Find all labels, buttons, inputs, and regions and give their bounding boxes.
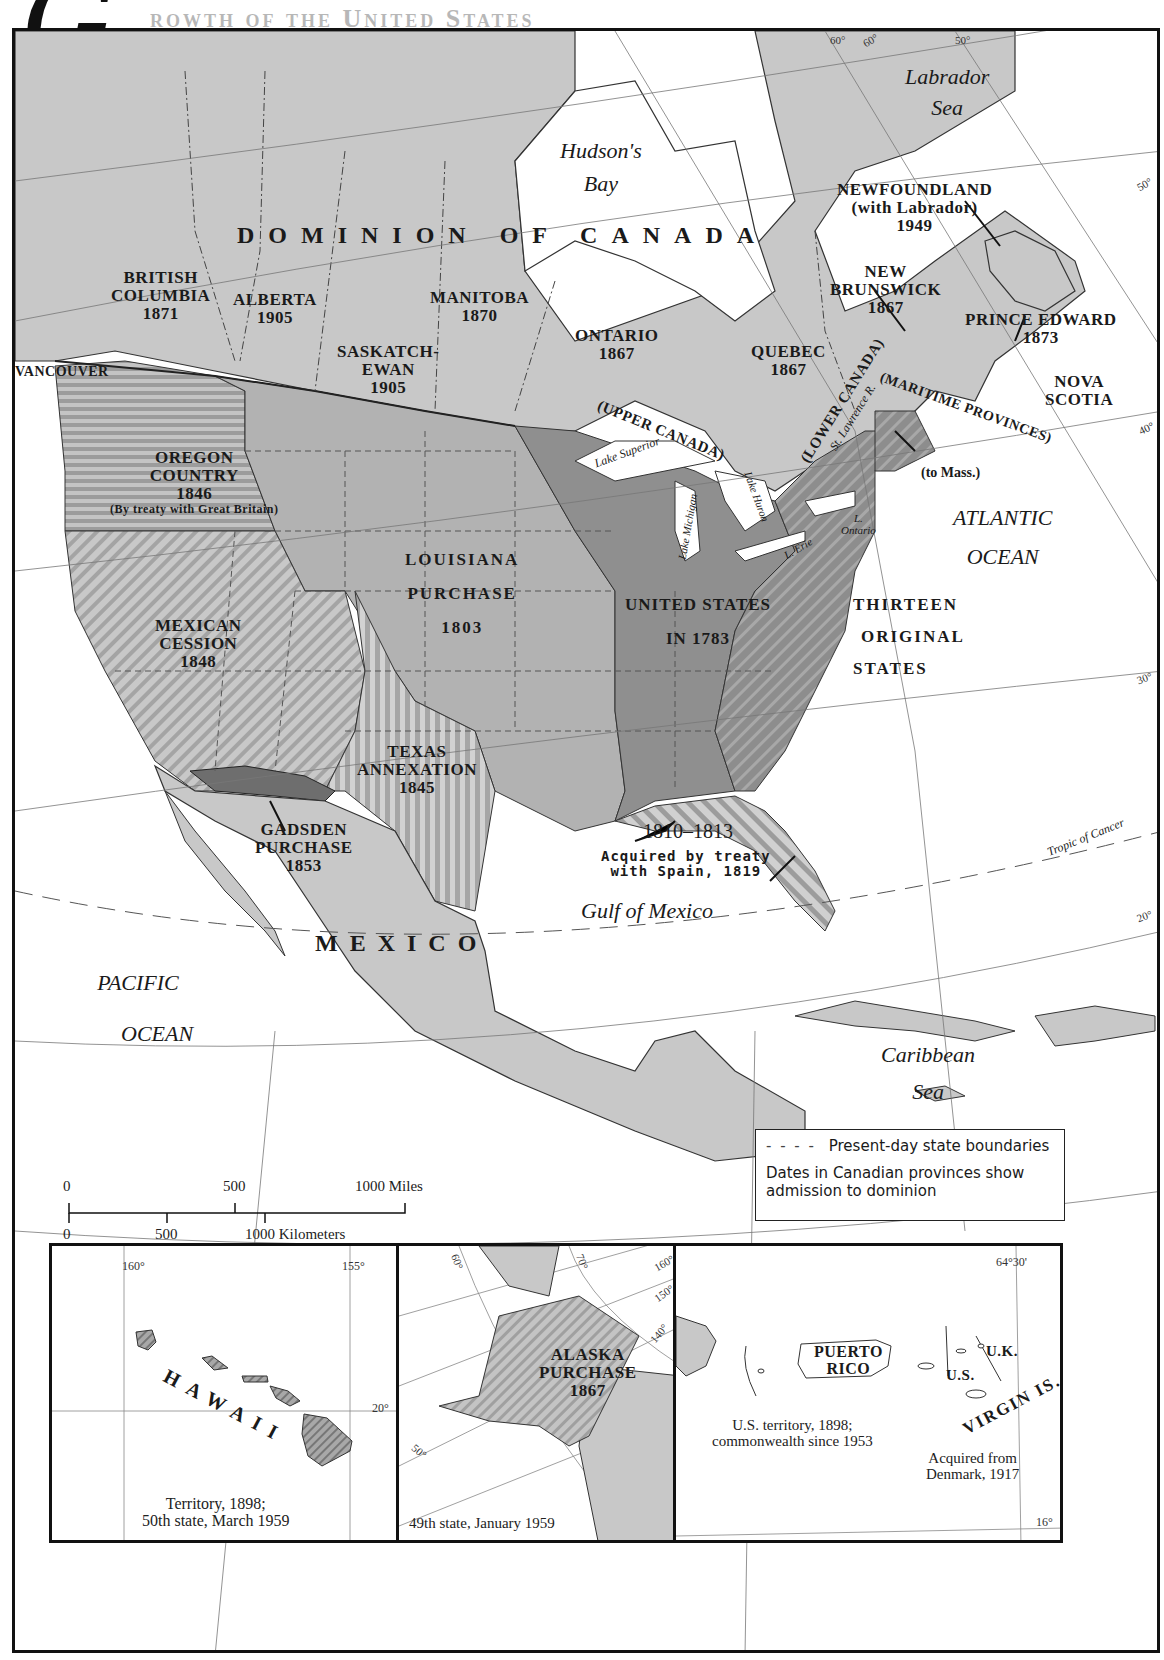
hudsons-bay-label: Hudson's Bay <box>560 139 642 195</box>
main-map: Labrador Sea Hudson's Bay ATLANTIC OCEAN… <box>12 28 1160 1653</box>
province-saskatchewan: SASKATCH-EWAN1905 <box>337 343 439 397</box>
hispaniola <box>1035 1006 1155 1046</box>
mexico-label: MEXICO <box>315 931 488 956</box>
puerto-rico-label: PUERTORICO <box>814 1344 883 1378</box>
kauai <box>136 1330 156 1350</box>
caribbean-lat: 16° <box>1036 1516 1053 1529</box>
scale-km-1000: 1000 Kilometers <box>245 1227 345 1243</box>
puerto-rico-caption: U.S. territory, 1898;commonwealth since … <box>712 1418 873 1450</box>
region-label-texas: TEXASANNEXATION1845 <box>357 743 477 797</box>
uk-virgin-label: U.K. <box>986 1344 1018 1360</box>
province-quebec: QUEBEC1867 <box>751 343 826 379</box>
region-label-louisiana: LOUISIANA PURCHASE 1803 <box>405 551 519 637</box>
lat-label-60a: 60° <box>830 35 845 47</box>
region-label-us-1783: UNITED STATES IN 1783 <box>625 596 771 648</box>
dashed-line-icon: - - - - <box>766 1137 816 1155</box>
province-british-columbia: BRITISHCOLUMBIA1871 <box>111 269 210 323</box>
caribbean-sea-label: Caribbean Sea <box>881 1043 975 1103</box>
inset-caribbean: PUERTORICO U.S. territory, 1898;commonwe… <box>673 1243 1063 1543</box>
legend-box: - - - - Present-day state boundaries Dat… <box>755 1129 1065 1221</box>
province-prince-edward: PRINCE EDWARD1873 <box>965 311 1116 347</box>
scale-km-0: 0 <box>63 1227 71 1243</box>
region-label-oregon: OREGONCOUNTRY1846 (By treaty with Great … <box>110 449 279 515</box>
gulf-of-mexico-label: Gulf of Mexico <box>581 899 713 922</box>
scale-km-500: 500 <box>155 1227 178 1243</box>
labrador-sea-label: Labrador Sea <box>905 65 989 119</box>
caribbean-lon: 64°30' <box>996 1256 1027 1269</box>
scale-miles-500: 500 <box>223 1179 246 1195</box>
oahu <box>202 1356 228 1370</box>
us-virgin-label: U.S. <box>946 1368 975 1384</box>
pacific-ocean-label: PACIFIC OCEAN <box>83 971 193 1045</box>
province-newfoundland: NEWFOUNDLAND(with Labrador)1949 <box>837 181 992 235</box>
region-label-mexican-cession: MEXICANCESSION1848 <box>155 617 242 671</box>
alaska-caption: 49th state, January 1959 <box>409 1516 555 1532</box>
atlantic-ocean-label: ATLANTIC OCEAN <box>953 506 1052 568</box>
inset-hawaii: 160° 155° 20° HAWAII Territory, 1898;50t… <box>49 1243 399 1543</box>
region-label-west-florida: 1810–1813 <box>643 821 733 842</box>
to-mass-label: (to Mass.) <box>921 466 980 481</box>
province-alberta: ALBERTA1905 <box>233 291 317 327</box>
province-manitoba: MANITOBA1870 <box>430 289 529 325</box>
region-label-thirteen: THIRTEEN ORIGINAL STATES <box>853 596 965 678</box>
siberia <box>479 1246 559 1296</box>
legend-boundaries-text: Present-day state boundaries <box>829 1137 1050 1155</box>
scale-miles-0: 0 <box>63 1179 71 1195</box>
big-island <box>302 1414 352 1466</box>
province-ontario: ONTARIO1867 <box>575 327 658 363</box>
lon-label-50: 50° <box>955 35 970 47</box>
hawaii-lon-160: 160° <box>122 1260 145 1273</box>
province-new-brunswick: NEWBRUNSWICK1867 <box>830 263 941 317</box>
maui <box>270 1386 300 1406</box>
region-label-gadsden: GADSDENPURCHASE1853 <box>255 821 353 875</box>
province-nova-scotia: NOVASCOTIA <box>1045 373 1113 409</box>
dominion-of-canada-label: DOMINION OF CANADA <box>237 223 768 248</box>
alaska-purchase-label: ALASKAPURCHASE1867 <box>539 1346 637 1400</box>
region-label-florida: Acquired by treatywith Spain, 1819 <box>601 849 771 878</box>
hispaniola-edge <box>676 1316 716 1376</box>
caribbean-svg <box>676 1246 1063 1543</box>
scale-miles-1000: 1000 Miles <box>355 1179 423 1195</box>
hawaii-lon-155: 155° <box>342 1260 365 1273</box>
hawaii-caption: Territory, 1898;50th state, March 1959 <box>142 1496 290 1530</box>
legend-row-boundaries: - - - - Present-day state boundaries <box>766 1138 1054 1155</box>
hawaii-lat-20: 20° <box>372 1402 389 1415</box>
lake-ontario-label: L.Ontario <box>841 513 876 536</box>
vancouver-label: VANCOUVER <box>15 365 109 380</box>
cuba <box>795 1001 1015 1041</box>
inset-alaska: ALASKAPURCHASE1867 60° 70° 160° 150° 140… <box>396 1243 678 1543</box>
scale-bar <box>69 1203 405 1223</box>
molokai <box>242 1376 268 1382</box>
virgin-islands-caption: Acquired fromDenmark, 1917 <box>926 1451 1019 1483</box>
legend-note-text: Dates in Canadian provinces show admissi… <box>766 1165 1054 1200</box>
mona-line <box>745 1346 756 1396</box>
